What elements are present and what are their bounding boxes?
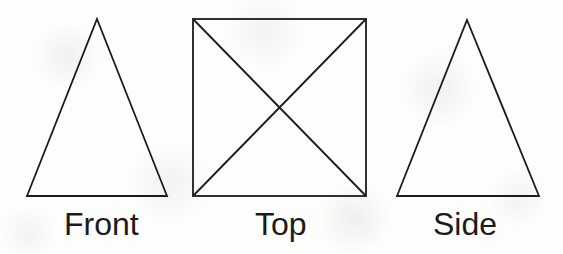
top-view-label: Top xyxy=(255,208,307,240)
front-view-label: Front xyxy=(64,208,139,240)
front-view-triangle xyxy=(27,19,167,196)
orthographic-projection-figure: Front Top Side xyxy=(0,0,563,254)
side-view-triangle xyxy=(397,20,539,196)
side-view-label: Side xyxy=(433,208,497,240)
